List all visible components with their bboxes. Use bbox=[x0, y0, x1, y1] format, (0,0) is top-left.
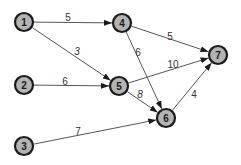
node-label: 6 bbox=[163, 113, 169, 124]
graph-diagram: 5365610874 1234567 bbox=[0, 0, 241, 165]
edge-weight-label: 5 bbox=[65, 12, 71, 23]
edge-1-to-5 bbox=[32, 28, 110, 81]
node-3: 3 bbox=[15, 137, 33, 155]
edge-weight-label: 10 bbox=[167, 59, 179, 70]
edge-1-to-4 bbox=[34, 22, 112, 23]
edge-3-to-6 bbox=[34, 120, 156, 144]
node-label: 4 bbox=[119, 18, 125, 29]
node-7: 7 bbox=[209, 46, 227, 64]
edge-4-to-6 bbox=[126, 32, 162, 109]
edge-2-to-5 bbox=[34, 85, 109, 86]
node-label: 5 bbox=[116, 81, 122, 92]
node-label: 1 bbox=[21, 17, 27, 28]
node-4: 4 bbox=[113, 14, 131, 32]
edge-weight-label: 5 bbox=[167, 31, 173, 42]
edge-weight-label: 4 bbox=[191, 89, 197, 100]
edge-weight-label: 7 bbox=[75, 126, 81, 137]
graph-svg: 5365610874 1234567 bbox=[0, 0, 241, 165]
node-5: 5 bbox=[110, 77, 128, 95]
edge-weight-label: 8 bbox=[137, 89, 143, 100]
edge-6-to-7 bbox=[172, 63, 211, 111]
edge-weight-label: 6 bbox=[62, 76, 68, 87]
node-label: 3 bbox=[21, 141, 27, 152]
edge-labels-layer: 5365610874 bbox=[62, 12, 197, 137]
edge-weight-label: 6 bbox=[135, 47, 141, 58]
nodes-layer: 1234567 bbox=[15, 13, 227, 155]
edge-weight-label: 3 bbox=[74, 46, 80, 57]
node-6: 6 bbox=[157, 109, 175, 127]
node-1: 1 bbox=[15, 13, 33, 31]
node-2: 2 bbox=[15, 76, 33, 94]
node-label: 7 bbox=[215, 50, 221, 61]
node-label: 2 bbox=[21, 80, 27, 91]
